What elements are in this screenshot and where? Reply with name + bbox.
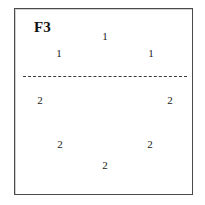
data-point-label-2: 2 — [57, 139, 63, 150]
data-point-label-1: 1 — [148, 48, 154, 59]
data-point-label-2: 2 — [167, 95, 173, 106]
data-point-label-1: 1 — [102, 31, 108, 42]
plot-frame: F3 11122222 — [14, 8, 193, 195]
data-point-label-2: 2 — [102, 160, 108, 171]
data-point-label-2: 2 — [37, 95, 43, 106]
dashed-separation-line — [23, 76, 187, 77]
figure-container: F3 11122222 — [0, 0, 205, 205]
data-point-label-1: 1 — [56, 48, 62, 59]
figure-label: F3 — [34, 20, 51, 35]
data-point-label-2: 2 — [147, 139, 153, 150]
